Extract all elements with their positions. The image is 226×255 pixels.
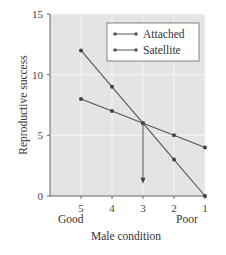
legend-label-attached: Attached (143, 28, 185, 40)
x-tick-labels: 54321 (78, 196, 208, 214)
svg-text:3: 3 (140, 202, 146, 214)
svg-text:0: 0 (38, 190, 44, 202)
y-axis-label: Reproductive success (17, 55, 30, 155)
legend: Attached Satellite (107, 23, 199, 61)
legend-label-satellite: Satellite (143, 44, 181, 56)
x-axis-label: Male condition (91, 230, 161, 242)
line-chart: 051015 54321 Attached Satellite Reproduc… (0, 0, 226, 255)
svg-text:5: 5 (38, 129, 44, 141)
svg-text:10: 10 (32, 69, 44, 81)
x-end-label-poor: Poor (176, 213, 198, 225)
x-end-label-good: Good (58, 213, 84, 225)
svg-text:4: 4 (109, 202, 115, 214)
y-tick-labels: 051015 (32, 8, 50, 202)
svg-text:1: 1 (202, 202, 208, 214)
svg-text:15: 15 (32, 8, 44, 20)
